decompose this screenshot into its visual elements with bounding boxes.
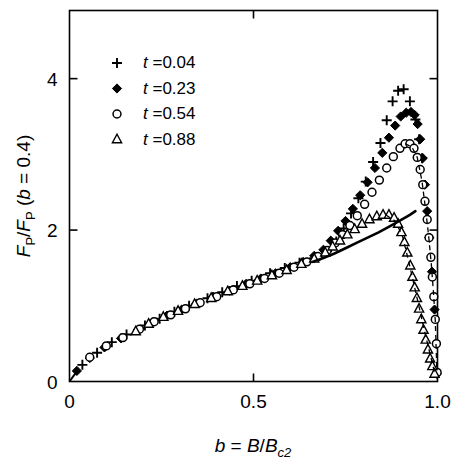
circle-marker [86,353,94,361]
figure-container: 00.51.0024 b = B/Bc2 FP/FP (b = 0.4) t =… [0,0,466,468]
circle-marker [361,200,369,208]
scatter-plot: 00.51.0024 b = B/Bc2 FP/FP (b = 0.4) t =… [0,0,466,468]
circle-marker [375,176,383,184]
y-tick-label: 4 [47,69,58,90]
circle-marker [181,305,189,313]
legend-label: t =0.54 [143,104,195,123]
circle-marker [383,164,391,172]
circle-marker [353,212,361,220]
y-tick-label: 2 [47,220,58,241]
legend-label: t =0.23 [143,79,195,98]
circle-marker [102,342,110,350]
x-tick-label: 0.5 [240,391,266,412]
x-tick-label: 1.0 [424,391,450,412]
legend-label: t =0.88 [143,130,195,149]
y-tick-label: 0 [47,372,58,393]
circle-marker [368,188,376,196]
circle-marker [119,334,127,342]
open-circle-marker [113,110,121,118]
legend-label: t =0.04 [143,53,195,72]
circle-marker [389,153,397,161]
x-tick-label: 0 [64,391,75,412]
